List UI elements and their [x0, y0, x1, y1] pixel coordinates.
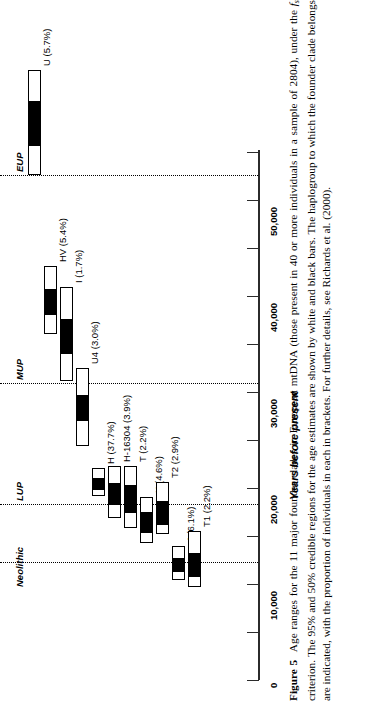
caption-symbol-f-subscript: s	[292, 0, 301, 3]
axis-tick-major	[247, 488, 259, 489]
range-bar-inner-u4	[77, 395, 88, 421]
axis-tick-major	[247, 584, 259, 585]
range-bar-label-u4: U4 (3.0%)	[89, 321, 100, 364]
range-bar-t	[124, 466, 137, 528]
range-bar-h	[92, 468, 105, 496]
period-label-eup: EUP	[14, 152, 25, 172]
range-bar-label-t2: T2 (2.9%)	[169, 436, 180, 478]
figure-caption-container: Figure 5 Age ranges for the 11 major fou…	[286, 0, 373, 701]
range-bar-label-i: I (1.7%)	[73, 250, 84, 283]
axis-tick-major	[247, 296, 259, 297]
range-bar-hv	[44, 266, 57, 334]
caption-symbol-f: f	[287, 3, 299, 6]
range-bar-inner-hv	[45, 289, 56, 315]
divider-eup	[0, 175, 258, 176]
range-bar-label-t: T (2.2%)	[137, 426, 148, 462]
period-label-lup: LUP	[14, 482, 25, 501]
axis-tick-major	[247, 680, 259, 681]
axis-tick-minor	[247, 344, 259, 345]
axis-tick-minor	[247, 248, 259, 249]
divider-neolithic	[0, 562, 258, 563]
range-bar-inner-u	[29, 101, 40, 146]
axis-ticklabel-40000: 40,000	[268, 303, 279, 332]
range-bar-t2	[156, 482, 169, 534]
divider-mup	[0, 383, 258, 384]
range-bar-inner-t2	[157, 501, 168, 525]
axis-tick-minor	[247, 632, 259, 633]
figure-caption: Figure 5 Age ranges for the 11 major fou…	[286, 0, 373, 701]
range-bar-label-hv: HV (5.4%)	[57, 218, 68, 262]
range-bar-h-16304	[108, 466, 121, 518]
range-bar-inner-h-16304	[109, 483, 120, 505]
figure-number: Figure 5	[287, 660, 299, 701]
range-bar-label-u: U (5.7%)	[41, 29, 52, 66]
range-bar-t1	[188, 531, 201, 587]
range-bar-inner-j	[173, 558, 184, 572]
range-bar-inner-t1	[189, 553, 200, 577]
figure-plot-area: 0 10,000 20,000 30,000 40,000 50,000 Yea…	[0, 0, 290, 701]
range-bar-inner-h	[93, 478, 104, 490]
axis-tick-minor	[247, 440, 259, 441]
range-bar-i	[60, 287, 73, 381]
caption-sentence-2b: criterion. The 95% and 50% credible regi…	[305, 120, 317, 701]
axis-tick-major	[247, 200, 259, 201]
period-label-mup: MUP	[14, 359, 25, 380]
range-bar-inner-i	[61, 319, 72, 354]
axis-ticklabel-30000: 30,000	[268, 399, 279, 428]
axis-ticklabel-10000: 10,000	[268, 591, 279, 620]
period-label-neolithic: Neolithic	[14, 547, 25, 587]
axis-ticklabel-20000: 20,000	[268, 495, 279, 524]
range-bar-inner-t	[125, 485, 136, 513]
range-bar-j	[172, 546, 185, 580]
range-bar-u4	[76, 368, 89, 446]
axis-ticklabel-50000: 50,000	[268, 207, 279, 236]
caption-sentence-1: Age ranges for the 11 major founder clad…	[287, 57, 299, 652]
caption-sentence-2a: under the	[287, 6, 299, 53]
axis-tick-minor	[247, 152, 259, 153]
range-bar-inner-k	[141, 512, 152, 533]
range-bar-u	[28, 70, 41, 175]
range-bar-label-t1: T1 (2.2%)	[201, 485, 212, 527]
range-bar-label-h: H (37.7%)	[105, 421, 116, 464]
axis-ticklabel-0: 0	[268, 683, 279, 688]
range-bar-k	[140, 497, 153, 543]
axis-tick-major	[247, 392, 259, 393]
caption-sentence-4: et al. (2000).	[320, 187, 332, 245]
range-bar-label-h-16304: H-16304 (3.9%)	[121, 395, 132, 462]
axis-tick-minor	[247, 536, 259, 537]
value-axis-line	[258, 150, 260, 680]
